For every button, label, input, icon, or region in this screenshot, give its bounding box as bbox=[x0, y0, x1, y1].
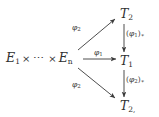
phi-subscript-diagonal-up: 2 bbox=[77, 26, 81, 32]
target-t1-middle-subscript: 1 bbox=[128, 60, 133, 69]
edge-label-diagonal-up: φ2 bbox=[72, 24, 81, 33]
target-node-t1-middle: T1 bbox=[120, 55, 133, 68]
edge-label-horizontal: φ1 bbox=[94, 49, 103, 58]
target-t2-bottom-subscript: 2, bbox=[128, 105, 135, 114]
phi-subscript-diagonal-down: 2 bbox=[77, 83, 81, 89]
source-last-factor: E bbox=[59, 50, 68, 65]
product-operator-1: × bbox=[20, 53, 32, 64]
edge-label-vertical-upper: (φ1)∗ bbox=[126, 30, 144, 39]
target-t2-top-subscript: 2 bbox=[128, 13, 133, 22]
pushforward-star-vertical-upper: ∗ bbox=[141, 32, 145, 38]
target-node-t2-bottom: T2, bbox=[120, 100, 136, 113]
phi-subscript-horizontal: 1 bbox=[99, 51, 103, 57]
edge-diagonal-up bbox=[78, 19, 115, 50]
commutative-diagram: E1×⋯×En T2 T1 T2, φ2 φ1 φ2 (φ1)∗ (φ2)∗ bbox=[0, 0, 159, 117]
edge-diagonal-down bbox=[78, 68, 115, 98]
pushforward-star-vertical-lower: ∗ bbox=[141, 78, 145, 84]
source-first-factor: E bbox=[6, 50, 15, 65]
edge-label-diagonal-down: φ2 bbox=[72, 81, 81, 90]
source-last-factor-subscript: n bbox=[68, 57, 73, 66]
source-object: E1×⋯×En bbox=[6, 52, 73, 65]
ellipsis: ⋯ bbox=[32, 52, 46, 65]
product-operator-2: × bbox=[46, 53, 58, 64]
edge-label-vertical-lower: (φ2)∗ bbox=[126, 76, 144, 85]
target-node-t2-top: T2 bbox=[120, 8, 133, 21]
